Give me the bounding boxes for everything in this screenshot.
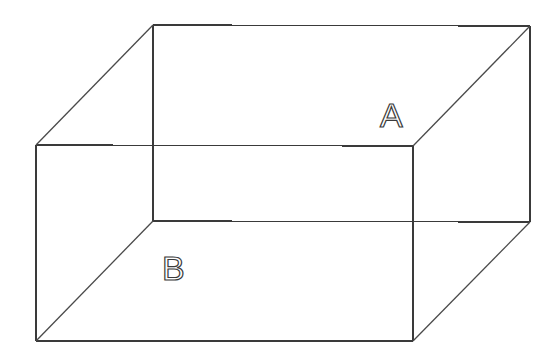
- back-top-edge: [153, 25, 530, 26]
- connector-top-right: [413, 26, 530, 146]
- connecting-edges: [36, 25, 530, 341]
- back-face: [153, 25, 530, 222]
- label-a: A: [380, 96, 403, 134]
- connector-top-left: [36, 25, 153, 145]
- front-top-edge: [36, 145, 413, 146]
- label-b: B: [162, 249, 185, 287]
- back-bottom-edge: [153, 221, 530, 222]
- wireframe-box-diagram: A B: [0, 0, 556, 363]
- connector-bottom-left: [36, 221, 153, 341]
- front-face: [36, 145, 413, 341]
- labels: A B: [162, 96, 403, 287]
- connector-bottom-right: [413, 222, 530, 341]
